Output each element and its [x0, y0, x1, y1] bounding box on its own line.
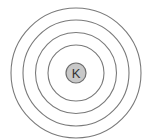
element-symbol: K [72, 66, 81, 81]
bohr-diagram: K [0, 0, 148, 140]
